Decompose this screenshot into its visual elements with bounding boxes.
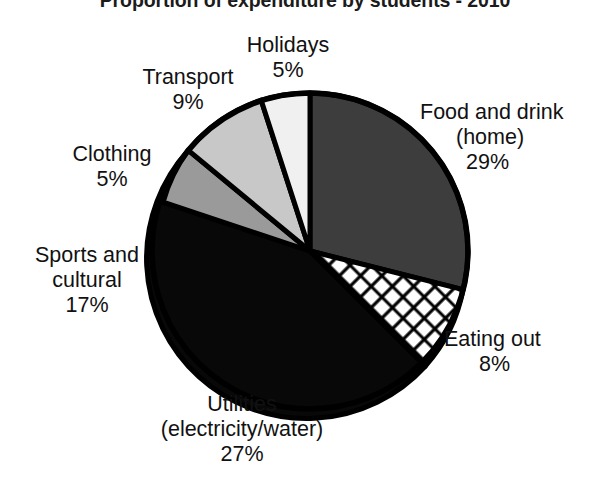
slice-label-sports-name-line1: Sports and xyxy=(0,243,182,268)
slice-label-transport-value: 9% xyxy=(93,90,283,115)
slice-label-clothing: Clothing 5% xyxy=(17,142,207,192)
slice-label-sports-name-line2: cultural xyxy=(0,268,182,293)
slice-label-utilities: Utilities (electricity/water) 27% xyxy=(102,392,382,467)
slice-label-food-value: 29% xyxy=(466,150,610,175)
slice-label-sports-and-cultural: Sports and cultural 17% xyxy=(0,243,182,318)
slice-label-eating-out-name: Eating out xyxy=(444,327,610,352)
slice-label-eating-out-value: 8% xyxy=(479,352,610,377)
slice-label-food-name-line2: (home) xyxy=(456,125,610,150)
slice-label-eating-out: Eating out 8% xyxy=(444,327,610,377)
slice-label-utilities-value: 27% xyxy=(102,442,382,467)
slice-label-food-name-line1: Food and drink xyxy=(420,100,610,125)
slice-label-transport-name: Transport xyxy=(93,65,283,90)
slice-label-food-and-drink: Food and drink (home) 29% xyxy=(420,100,610,175)
slice-label-clothing-value: 5% xyxy=(17,167,207,192)
slice-label-transport: Transport 9% xyxy=(93,65,283,115)
slice-label-sports-value: 17% xyxy=(0,293,182,318)
slice-label-utilities-name-line1: Utilities xyxy=(102,392,382,417)
slice-label-holidays-name: Holidays xyxy=(193,33,383,58)
slice-label-utilities-name-line2: (electricity/water) xyxy=(102,417,382,442)
slice-label-clothing-name: Clothing xyxy=(17,142,207,167)
pie-chart-figure: Proportion of expenditure by students - … xyxy=(0,0,610,494)
